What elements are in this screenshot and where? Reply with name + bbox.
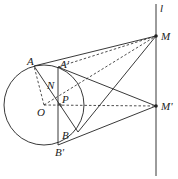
point-m-prime (154, 104, 158, 108)
tangent-mprime-bprime (58, 106, 156, 145)
label-a-prime: A' (59, 58, 70, 70)
label-l: l (160, 2, 163, 14)
tangent-m-a (34, 36, 156, 66)
dashed-o-m (44, 36, 156, 105)
label-o: O (37, 106, 45, 118)
label-b: B (62, 129, 69, 141)
label-b-prime: B' (55, 146, 65, 158)
geometry-diagram: l M M' A A' N P O B B' (0, 0, 178, 179)
label-m: M (160, 30, 171, 42)
label-m-prime: M' (160, 100, 173, 112)
point-m (154, 34, 158, 38)
label-n: N (46, 79, 55, 91)
tangent-mprime-aprime (58, 67, 156, 106)
dashed-aprime-m (58, 36, 156, 67)
tangent-m-b (78, 36, 156, 132)
label-a: A (26, 55, 34, 67)
dashed-o-a (34, 66, 44, 105)
label-p: P (61, 93, 69, 105)
